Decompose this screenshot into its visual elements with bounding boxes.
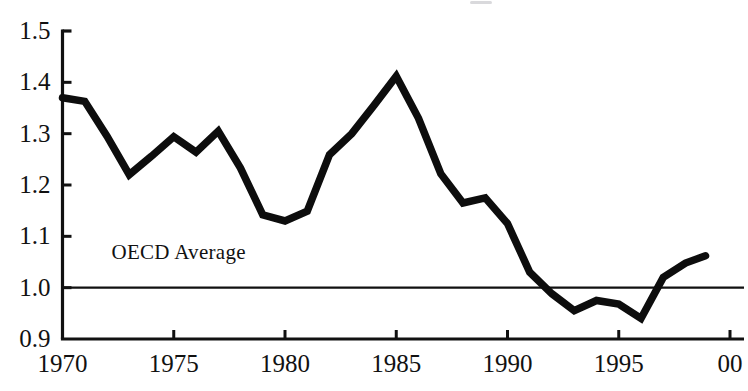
x-tick-label: 1995 <box>574 351 664 376</box>
x-tick-label: 00 <box>685 351 748 376</box>
x-tick-label: 1970 <box>18 351 108 376</box>
oecd-average-label: OECD Average <box>111 242 245 263</box>
x-tick-label: 1975 <box>129 351 219 376</box>
axis-layer <box>61 29 744 339</box>
x-tick-label: 1985 <box>351 351 441 376</box>
chart-figure: 1.51.41.31.21.11.00.9 197019751980198519… <box>0 0 748 391</box>
chart-canvas <box>0 0 748 391</box>
y-tick-label: 1.2 <box>0 172 51 197</box>
y-tick-label: 1.5 <box>0 18 51 43</box>
x-tick-label: 1980 <box>240 351 330 376</box>
y-tick-label: 1.0 <box>0 275 51 300</box>
y-tick-label: 0.9 <box>0 326 51 351</box>
x-tick-label: 1990 <box>463 351 553 376</box>
y-tick-label: 1.3 <box>0 121 51 146</box>
data-series-layer <box>63 76 706 318</box>
y-tick-label: 1.1 <box>0 223 51 248</box>
y-tick-label: 1.4 <box>0 69 51 94</box>
data-line-relative-level <box>63 76 706 318</box>
